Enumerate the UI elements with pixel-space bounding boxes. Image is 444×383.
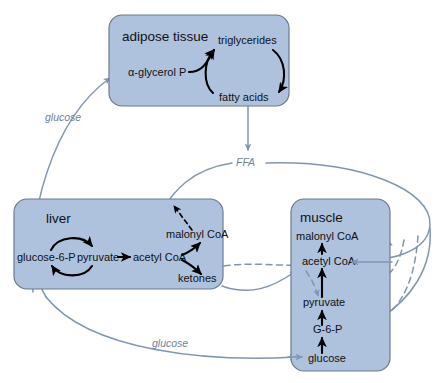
metabolic-pathway-diagram: adipose tissue α-glycerol P triglyceride… bbox=[0, 0, 444, 383]
liver-title: liver bbox=[46, 211, 71, 226]
adipose-fatty-acids-label: fatty acids bbox=[219, 91, 269, 103]
muscle-malonyl-coa-label: malonyl CoA bbox=[296, 230, 359, 242]
muscle-acetyl-coa-label: acetyl CoA bbox=[302, 255, 356, 267]
adipose-tissue-box[interactable]: adipose tissue α-glycerol P triglyceride… bbox=[109, 15, 289, 106]
label-glucose-to-muscle: glucose bbox=[152, 337, 188, 349]
flow-ketones-liver-to-muscle bbox=[222, 271, 296, 290]
liver-pyruvate-label: pyruvate bbox=[77, 251, 119, 263]
liver-ketones-label: ketones bbox=[178, 272, 217, 284]
liver-malonyl-coa-label: malonyl CoA bbox=[166, 228, 229, 240]
adipose-tissue-title: adipose tissue bbox=[122, 29, 208, 44]
muscle-g-6-p-label: G-6-P bbox=[313, 323, 342, 335]
muscle-box[interactable]: muscle malonyl CoA acetyl CoA pyruvate G… bbox=[291, 199, 390, 371]
flow-dashed-liver-to-muscle-acetylcoa bbox=[224, 264, 297, 266]
liver-acetyl-coa-label: acetyl CoA bbox=[133, 251, 187, 263]
label-ffa: FFA bbox=[236, 156, 255, 168]
muscle-title: muscle bbox=[300, 210, 343, 225]
label-glucose-to-adipose: glucose bbox=[45, 111, 81, 123]
muscle-pyruvate-label: pyruvate bbox=[303, 296, 345, 308]
adipose-glycerol-p-label: α-glycerol P bbox=[128, 66, 186, 78]
muscle-glucose-label: glucose bbox=[308, 352, 346, 364]
adipose-triglycerides-label: triglycerides bbox=[218, 34, 277, 46]
liver-glucose-6-p-label: glucose-6-P bbox=[17, 251, 76, 263]
liver-box[interactable]: liver glucose-6-P pyruvate acetyl CoA ma… bbox=[14, 199, 229, 289]
